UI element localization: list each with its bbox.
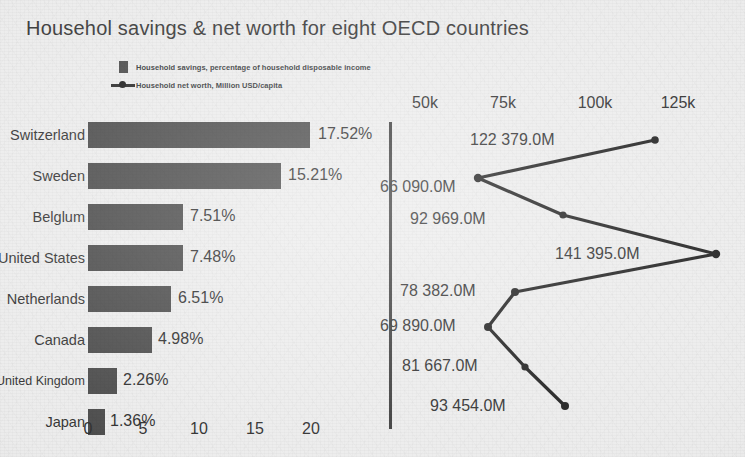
point-value-label: 93 454.0M — [430, 397, 506, 415]
point-value-label: 92 969.0M — [410, 210, 486, 228]
bar-chart-panel: Switzerland 17.52% Sweden 15.21% Belglum… — [0, 118, 390, 456]
bar-row: Netherlands 6.51% — [0, 282, 390, 316]
bar-rect — [88, 245, 183, 271]
bar-value-label: 7.48% — [190, 248, 235, 266]
bar-rect — [88, 122, 310, 148]
bar-category-label: Canada — [0, 332, 85, 348]
bar-value-label: 6.51% — [178, 289, 223, 307]
net-worth-polyline — [478, 140, 716, 406]
data-point-marker — [559, 211, 566, 218]
bar-row: Canada 4.98% — [0, 323, 390, 357]
bar-value-label: 15.21% — [288, 166, 342, 184]
bar-row: Belglum 7.51% — [0, 200, 390, 234]
data-point-marker — [511, 288, 519, 296]
data-point-marker — [521, 363, 528, 370]
line-chart-panel: 50k 75k 100k 125k 122 379.0M 66 090.0M 9… — [380, 90, 745, 457]
bar-row: United Kingdom 2.26% — [0, 364, 390, 398]
point-value-label: 66 090.0M — [380, 178, 456, 196]
data-point-marker — [474, 174, 482, 182]
bar-value-label: 2.26% — [123, 371, 168, 389]
bar-rect — [88, 327, 152, 353]
legend-item-label: Household savings, percentage of househo… — [136, 62, 371, 71]
bar-rect — [88, 204, 183, 230]
point-value-label: 81 667.0M — [402, 357, 478, 375]
chart-figure: Househol savings & net worth for eight O… — [0, 0, 745, 457]
data-point-marker — [561, 402, 569, 410]
bar-axis-tick: 5 — [139, 420, 148, 438]
point-value-label: 78 382.0M — [400, 282, 476, 300]
line-marker-icon — [110, 80, 136, 90]
bar-category-label: Sweden — [0, 168, 85, 184]
bar-row: Switzerland 17.52% — [0, 118, 390, 152]
chart-title: Househol savings & net worth for eight O… — [26, 17, 529, 40]
bar-category-label: United Kingdom — [0, 374, 85, 388]
bar-rect — [88, 286, 171, 312]
legend-item-household-savings: Household savings, percentage of househo… — [110, 59, 440, 75]
bar-category-label: United States — [0, 250, 85, 266]
bar-row: United States 7.48% — [0, 241, 390, 275]
bar-row: Sweden 15.21% — [0, 159, 390, 193]
bar-axis-tick: 20 — [302, 420, 320, 438]
bar-value-label: 17.52% — [318, 125, 372, 143]
bar-value-label: 7.51% — [190, 207, 235, 225]
legend-item-label: Household net worth, Million USD/capita — [136, 80, 282, 89]
point-value-label: 122 379.0M — [470, 131, 555, 149]
data-point-marker — [484, 323, 492, 331]
bar-rect — [88, 163, 281, 189]
bar-category-label: Switzerland — [0, 127, 85, 143]
bar-value-label: 4.98% — [158, 330, 203, 348]
square-swatch-icon — [110, 61, 136, 73]
point-value-label: 141 395.0M — [555, 245, 640, 263]
data-point-marker — [651, 136, 659, 144]
bar-axis-tick: 0 — [84, 420, 93, 438]
bar-axis-tick: 10 — [190, 420, 208, 438]
bar-axis-tick: 15 — [246, 420, 264, 438]
data-point-marker — [712, 250, 720, 258]
bar-rect — [88, 368, 117, 394]
bar-x-axis: 0 5 10 15 20 — [0, 420, 390, 450]
bar-category-label: Netherlands — [0, 291, 85, 307]
bar-category-label: Belglum — [0, 209, 85, 225]
point-value-label: 69 890.0M — [380, 317, 456, 335]
